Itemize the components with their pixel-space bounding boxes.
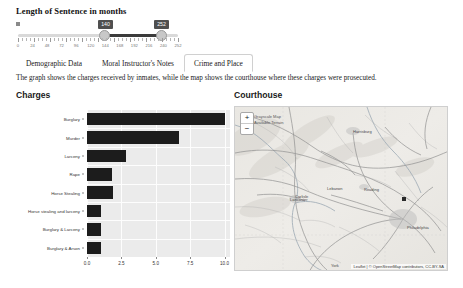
chart-x-label: 5.0 bbox=[153, 261, 159, 266]
slider-tick bbox=[158, 38, 159, 41]
slider-tick bbox=[174, 38, 175, 41]
chart-bar[interactable] bbox=[87, 131, 179, 144]
chart-y-tick bbox=[82, 137, 84, 138]
slider-title: Length of Sentence in months bbox=[16, 6, 180, 16]
slider-tick bbox=[34, 38, 35, 42]
slider-tick-label: 24 bbox=[30, 43, 35, 48]
chart-y-label: Horse stealing and larceny bbox=[28, 209, 80, 214]
chart-bar-row bbox=[87, 150, 230, 163]
chart-y-label: Murder bbox=[66, 135, 80, 140]
slider-tick-label: 0 bbox=[17, 43, 19, 48]
chart-bar[interactable] bbox=[87, 113, 225, 126]
courthouse-panel: Courthouse bbox=[234, 90, 448, 271]
charges-panel: Charges BurglaryMurderLarcenyRapeHorse S… bbox=[16, 90, 230, 271]
slider-tick bbox=[166, 38, 167, 41]
chart-x-label: 7.5 bbox=[187, 261, 193, 266]
tab-demographic-data[interactable]: Demographic Data bbox=[16, 54, 92, 72]
slider-tick bbox=[146, 38, 147, 42]
chart-y-label: Burglary & Arson bbox=[47, 245, 80, 250]
description-text: The graph shows the charges received by … bbox=[16, 73, 448, 83]
slider-tick-labels: 024487296120144168192216240252 bbox=[16, 43, 180, 51]
courthouse-title: Courthouse bbox=[234, 90, 448, 100]
chart-y-tick bbox=[82, 155, 84, 156]
app-page: Length of Sentence in months 140 252 024… bbox=[0, 0, 463, 288]
slider-tick-label: 240 bbox=[160, 43, 167, 48]
slider-tick bbox=[50, 38, 51, 42]
chart-y-label: Rape bbox=[70, 172, 81, 177]
layer-label-0: Grayscale Map bbox=[254, 114, 283, 120]
slider-tick bbox=[82, 38, 83, 42]
slider-tick bbox=[90, 38, 91, 41]
slider-tick bbox=[118, 38, 119, 41]
slider-tick-label: 216 bbox=[145, 43, 152, 48]
chart-bar-row bbox=[87, 168, 230, 181]
slider-tick-label: 48 bbox=[45, 43, 50, 48]
slider-tick bbox=[58, 38, 59, 41]
chart-bar-row bbox=[87, 223, 230, 236]
slider-tick bbox=[154, 38, 155, 41]
slider-tick bbox=[106, 38, 107, 41]
map-zoom-controls[interactable]: + − bbox=[240, 112, 254, 135]
slider-tick bbox=[46, 38, 47, 41]
map-attribution[interactable]: Leaflet | © OpenStreetMap contributors, … bbox=[351, 264, 446, 269]
slider-tick bbox=[66, 38, 67, 42]
leaflet-map[interactable]: + − Grayscale Map Available Terrain Harr… bbox=[234, 106, 448, 271]
slider-tick bbox=[74, 38, 75, 41]
slider-tick bbox=[18, 38, 19, 42]
slider-tick-label: 96 bbox=[74, 43, 79, 48]
chart-y-tick bbox=[82, 192, 84, 193]
chart-y-label: Burglary bbox=[64, 117, 80, 122]
courthouse-marker[interactable] bbox=[402, 197, 406, 201]
tab-crime-and-place[interactable]: Crime and Place bbox=[184, 54, 253, 72]
chart-plot-area bbox=[87, 110, 230, 257]
chart-x-tick bbox=[156, 257, 157, 259]
range-slider[interactable]: 140 252 024487296120144168192216240252 bbox=[16, 21, 180, 47]
slider-tick-label: 192 bbox=[131, 43, 138, 48]
map-layer-labels: Grayscale Map Available Terrain bbox=[254, 114, 283, 125]
layer-label-1: Available Terrain bbox=[254, 120, 283, 126]
map-city-label: Lancaster bbox=[290, 197, 308, 202]
chart-x-tick bbox=[225, 257, 226, 259]
slider-tick bbox=[126, 38, 127, 41]
drag-handle-icon bbox=[16, 22, 20, 26]
chart-bar[interactable] bbox=[87, 186, 113, 199]
charges-title: Charges bbox=[16, 90, 230, 100]
slider-tick bbox=[170, 38, 171, 41]
slider-tick bbox=[110, 38, 111, 41]
chart-x-axis-labels: 0.02.55.07.510.0 bbox=[87, 259, 230, 269]
map-city-label: York bbox=[331, 263, 339, 268]
map-city-label: Lebanon bbox=[327, 186, 343, 191]
chart-bar[interactable] bbox=[87, 150, 126, 163]
tab-bar: Demographic DataMoral Instructor's Notes… bbox=[16, 54, 446, 72]
slider-tick bbox=[30, 38, 31, 41]
chart-y-label: Burglary & Larceny bbox=[43, 227, 80, 232]
slider-tick bbox=[142, 38, 143, 41]
chart-y-label: Larceny bbox=[64, 153, 80, 158]
slider-tick bbox=[162, 38, 163, 42]
slider-tick bbox=[98, 38, 99, 42]
chart-bar[interactable] bbox=[87, 205, 101, 218]
chart-bar[interactable] bbox=[87, 223, 101, 236]
slider-tick bbox=[134, 38, 135, 41]
map-city-label: Harrisburg bbox=[353, 129, 372, 134]
chart-bar[interactable] bbox=[87, 242, 101, 255]
chart-bar-row bbox=[87, 113, 230, 126]
chart-bar-row bbox=[87, 205, 230, 218]
chart-y-label: Horse Stealing bbox=[51, 190, 80, 195]
zoom-out-button[interactable]: − bbox=[241, 124, 253, 134]
slider-tick bbox=[130, 38, 131, 42]
map-city-label: Philadelphia bbox=[407, 225, 429, 230]
slider-tick bbox=[102, 38, 103, 41]
chart-bar-row bbox=[87, 186, 230, 199]
slider-tick-label: 144 bbox=[102, 43, 109, 48]
chart-y-tick bbox=[82, 247, 84, 248]
slider-tick-label: 72 bbox=[59, 43, 64, 48]
slider-tick bbox=[86, 38, 87, 41]
chart-x-label: 2.5 bbox=[118, 261, 124, 266]
tab-moral-instructor-s-notes[interactable]: Moral Instructor's Notes bbox=[92, 54, 184, 72]
slider-tick bbox=[38, 38, 39, 41]
chart-bar[interactable] bbox=[87, 168, 112, 181]
zoom-in-button[interactable]: + bbox=[241, 113, 253, 124]
slider-max-value: 252 bbox=[154, 20, 169, 29]
slider-tick bbox=[70, 38, 71, 41]
